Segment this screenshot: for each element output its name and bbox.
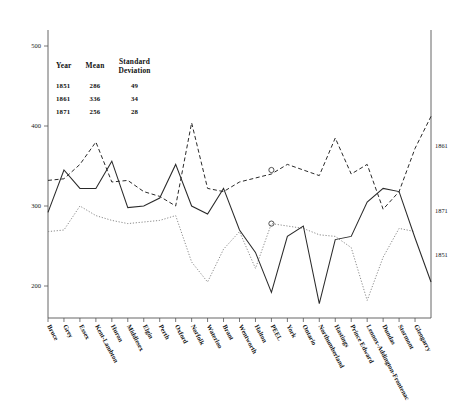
stats-cell-sd: 28 [118, 102, 156, 115]
stats-table-body: 185128649186133634187125628 [56, 76, 157, 115]
header-year: Year [56, 58, 86, 76]
x-tick-label: Stormont [397, 323, 416, 351]
y-axis-ticks [44, 46, 48, 286]
x-tick-label: Ontario [301, 323, 318, 347]
stats-cell-sd: 34 [118, 89, 156, 102]
series-label-1851: 1851 [435, 251, 448, 258]
x-tick-label: Bruce [46, 323, 60, 341]
x-tick-label: Grey [62, 323, 75, 339]
stats-table-element: Year Mean Standard Deviation 18512864918… [56, 58, 157, 115]
data-marker-1871 [269, 167, 274, 172]
y-tick-label: 400 [31, 122, 41, 129]
summary-statistics-table: Year Mean Standard Deviation 18512864918… [56, 58, 157, 115]
stats-cell-mean: 256 [86, 102, 119, 115]
x-tick-label: Norfolk [190, 323, 207, 346]
x-tick-label: York [285, 323, 298, 339]
y-axis-tick-labels: 500400300200 [31, 42, 41, 289]
series-label-1861: 1861 [435, 142, 448, 149]
x-tick-label: PEEL [270, 323, 285, 342]
series-line-1871 [48, 116, 431, 209]
data-marker-1851 [269, 221, 274, 226]
stats-cell-mean: 286 [86, 76, 119, 89]
data-point-markers [269, 167, 274, 226]
stats-cell-mean: 336 [86, 89, 119, 102]
stats-cell-year: 1861 [56, 89, 86, 102]
stats-cell-year: 1871 [56, 102, 86, 115]
y-tick-label: 300 [31, 202, 41, 209]
series-inline-labels: 186118711851 [435, 142, 448, 258]
y-tick-label: 200 [31, 282, 41, 289]
stats-table-row: 185128649 [56, 76, 157, 89]
stats-table-row: 187125628 [56, 102, 157, 115]
x-tick-label: Glengarry [413, 323, 433, 353]
x-axis-ticks [48, 318, 415, 322]
x-tick-label: Halton [254, 323, 269, 344]
header-standard-deviation: Standard Deviation [118, 58, 156, 76]
stats-table-row: 186133634 [56, 89, 157, 102]
x-tick-label: Elgin [142, 323, 155, 340]
y-tick-label: 500 [31, 42, 41, 49]
series-line-1851 [48, 206, 415, 300]
header-mean: Mean [86, 58, 119, 76]
x-tick-label: Oxford [174, 323, 190, 345]
x-axis-tick-labels: BruceGreyEssexKent-LambtonHuronMiddlesex… [46, 323, 433, 401]
header-sd-line2: Deviation [118, 66, 150, 75]
x-tick-label: Dundas [381, 323, 398, 346]
x-tick-label: Perth [158, 323, 172, 340]
table-header-row: Year Mean Standard Deviation [56, 58, 157, 76]
stats-cell-year: 1851 [56, 76, 86, 89]
stats-cell-sd: 49 [118, 76, 156, 89]
x-tick-label: Essex [78, 323, 92, 341]
series-label-1871: 1871 [435, 207, 448, 214]
x-tick-label: Brant [222, 323, 236, 342]
chart-figure: 500400300200 BruceGreyEssexKent-LambtonH… [0, 0, 460, 412]
x-tick-label: Waterloo [206, 323, 225, 350]
x-tick-label: Huron [110, 323, 125, 343]
data-series-layer [48, 116, 431, 303]
